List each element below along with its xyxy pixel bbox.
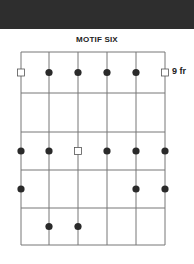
finger-dot-icon [103, 147, 110, 154]
finger-dot-icon [45, 147, 52, 154]
finger-dot-icon [45, 223, 52, 230]
finger-dot-icon [17, 147, 24, 154]
finger-dot-icon [74, 223, 81, 230]
finger-dot-icon [161, 147, 168, 154]
fret-position-label: 9 fr [172, 66, 186, 76]
root-square-icon [75, 148, 82, 155]
finger-dot-icon [17, 185, 24, 192]
fretboard-diagram [0, 0, 194, 264]
finger-dot-icon [161, 185, 168, 192]
finger-dot-icon [103, 69, 110, 76]
finger-dot-icon [74, 69, 81, 76]
finger-dot-icon [132, 69, 139, 76]
root-square-icon [162, 69, 169, 76]
root-square-icon [18, 69, 25, 76]
finger-dot-icon [132, 147, 139, 154]
finger-dot-icon [132, 185, 139, 192]
finger-dot-icon [45, 69, 52, 76]
